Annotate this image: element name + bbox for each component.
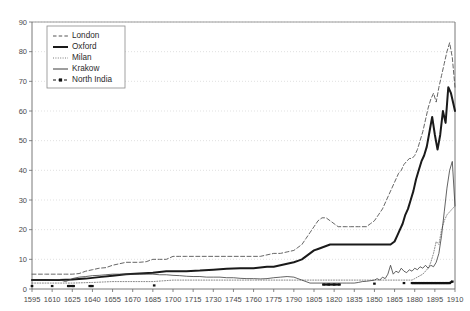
legend-label: Milan (72, 53, 92, 62)
legend-swatch-marker (59, 78, 62, 81)
legend-label: North India (72, 75, 112, 84)
x-tick-label: 1700 (165, 295, 182, 304)
x-tick-label: 1670 (124, 295, 141, 304)
legend-label: Krakow (72, 64, 99, 73)
series-line (32, 161, 455, 283)
x-tick-label: 1790 (286, 295, 303, 304)
data-marker (51, 285, 54, 287)
line-chart: 0102030405060708090159516101625164016551… (0, 0, 470, 311)
data-marker (373, 283, 376, 285)
x-tick-label: 1820 (326, 295, 343, 304)
series-line (32, 87, 455, 280)
x-tick-label: 1745 (225, 295, 242, 304)
x-tick-label: 1805 (306, 295, 323, 304)
x-tick-label: 1835 (346, 295, 363, 304)
x-tick-label: 1730 (205, 295, 222, 304)
y-tick-label: 0 (23, 285, 27, 294)
x-tick-label: 1775 (265, 295, 282, 304)
x-tick-label: 1850 (366, 295, 383, 304)
x-tick-label: 1865 (386, 295, 403, 304)
x-tick-label: 1595 (24, 295, 41, 304)
data-marker (153, 284, 156, 286)
x-tick-label: 1685 (145, 295, 162, 304)
series-north-india (31, 280, 454, 287)
x-tick-label: 1910 (447, 295, 464, 304)
y-tick-label: 50 (19, 136, 27, 145)
x-tick-label: 1895 (427, 295, 444, 304)
x-tick-label: 1760 (245, 295, 262, 304)
y-tick-label: 70 (19, 77, 27, 86)
legend-label: London (72, 31, 100, 40)
y-tick-label: 30 (19, 196, 27, 205)
y-tick-label: 10 (19, 255, 27, 264)
x-tick-label: 1655 (104, 295, 121, 304)
chart-container: 0102030405060708090159516101625164016551… (0, 0, 470, 311)
series-krakow (32, 161, 455, 283)
series-oxford (32, 87, 455, 280)
x-tick-label: 1715 (185, 295, 202, 304)
x-tick-label: 1625 (64, 295, 81, 304)
y-tick-label: 60 (19, 107, 27, 116)
x-tick-label: 1880 (406, 295, 423, 304)
y-tick-label: 20 (19, 225, 27, 234)
legend: LondonOxfordMilanKrakowNorth India (47, 26, 125, 88)
data-segment (450, 282, 453, 283)
legend-label: Oxford (72, 42, 97, 51)
data-marker (31, 285, 34, 287)
y-tick-label: 40 (19, 166, 27, 175)
y-tick-label: 80 (19, 47, 27, 56)
y-tick-label: 90 (19, 18, 27, 27)
data-marker (403, 282, 406, 284)
x-tick-label: 1640 (84, 295, 101, 304)
x-tick-label: 1610 (44, 295, 61, 304)
